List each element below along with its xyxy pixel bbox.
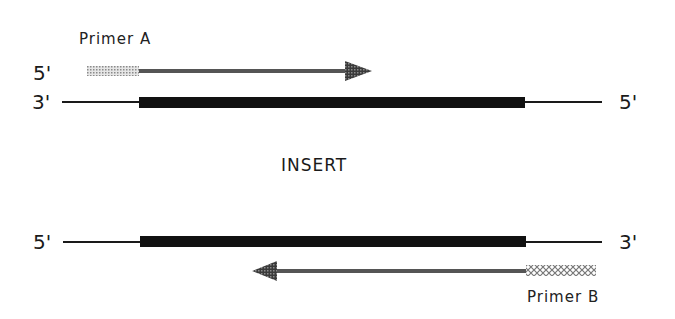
bottom-strand-right-label: 3' <box>619 232 637 252</box>
bottom-insert-bar <box>140 236 526 247</box>
top-strand-right-label: 5' <box>619 92 637 112</box>
primer-b-tail <box>526 265 596 276</box>
primer-a-shaft <box>139 69 345 73</box>
top-strand <box>62 97 602 108</box>
primer-a-label: Primer A <box>79 32 151 47</box>
bottom-strand-left-label: 5' <box>33 232 51 252</box>
primer-b <box>252 261 596 281</box>
insert-label: INSERT <box>281 157 347 174</box>
top-strand-left-label: 3' <box>32 92 50 112</box>
primer-b-label: Primer B <box>527 290 599 305</box>
top-insert-bar <box>139 97 525 108</box>
primer-b-shaft <box>277 269 526 273</box>
primer-a <box>87 61 372 81</box>
primer-a-tail <box>87 66 139 76</box>
primer-a-5prime-label: 5' <box>33 63 51 83</box>
bottom-strand <box>63 236 602 247</box>
primer-a-arrowhead-icon <box>345 61 372 81</box>
primer-b-arrowhead-icon <box>252 261 277 281</box>
